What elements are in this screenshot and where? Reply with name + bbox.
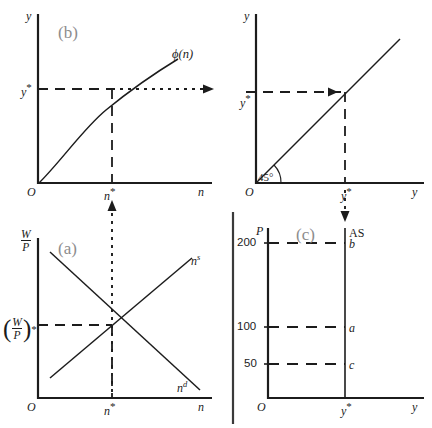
panel-c-point-a: a <box>349 322 355 334</box>
linkage-b-to-45-arrowhead <box>203 85 214 94</box>
panel-c-y-axis-label: P <box>256 225 263 237</box>
panel-45-angle-label: 45° <box>258 172 273 183</box>
panel-a-y-axis-label: W P <box>21 228 31 253</box>
right-paren-glyph: ) <box>23 319 31 339</box>
panel-45-y-star-axis-label: y* <box>240 93 251 109</box>
panel-c-price-tick-100: 100 <box>237 321 256 333</box>
panel-c-point-b: b <box>349 238 355 250</box>
panel-a-labor-supply-curve <box>50 258 192 378</box>
panel-a-equilibrium-wage-label: ( W P ) * <box>3 316 37 341</box>
panel-c-price-tick-200: 200 <box>237 237 256 249</box>
panel-c-y-star-label: y* <box>341 401 352 417</box>
panel-a-labor-supply-label: ns <box>191 253 200 267</box>
panel-b-production-curve-label: ϕ(n) <box>172 48 193 61</box>
panel-c-price-tick-50: 50 <box>244 358 257 370</box>
panel-b-x-axis-label: n <box>198 186 204 198</box>
linkage-45-to-c-arrowhead <box>341 211 350 222</box>
panel-c-origin-label: O <box>257 401 266 413</box>
panel-45-x-axis-label: y <box>412 186 417 198</box>
panel-a-labor-demand-curve <box>50 252 200 390</box>
panel-b-production-curve <box>39 59 178 183</box>
panel-a-labor-demand-label: nd <box>177 380 187 394</box>
panel-a-origin-label: O <box>27 401 36 413</box>
panel-45-y-axis-label: y <box>244 10 249 22</box>
panel-45-identity-line <box>257 39 400 182</box>
panel-c-tag: (c) <box>296 226 315 243</box>
panel-45-origin-label: O <box>245 186 254 198</box>
left-paren-glyph: ( <box>3 319 11 339</box>
panel-b-tag: (b) <box>58 24 78 41</box>
panel-b-origin-label: O <box>27 186 36 198</box>
panel-b-y-star-label: y* <box>21 82 32 98</box>
panel-45-inbound-arrowhead <box>328 88 338 97</box>
panel-b-n-star-label: n* <box>104 186 116 202</box>
panel-45-y-star-x-axis-label: y* <box>341 186 352 202</box>
figure-vector-layer <box>0 0 432 428</box>
panel-c-x-axis-label: y <box>412 401 417 413</box>
panel-b-y-axis-label: y <box>26 10 31 22</box>
panel-a-n-star-label: n* <box>104 401 116 417</box>
panel-a-x-axis-label: n <box>198 401 204 413</box>
panel-45-angle-arc <box>274 165 281 183</box>
panel-c-point-c: c <box>349 359 354 371</box>
panel-a-tag: (a) <box>58 240 77 257</box>
figure-canvas: y n O (b) ϕ(n) y* n* y y O 45° y* y* W P… <box>0 0 432 428</box>
